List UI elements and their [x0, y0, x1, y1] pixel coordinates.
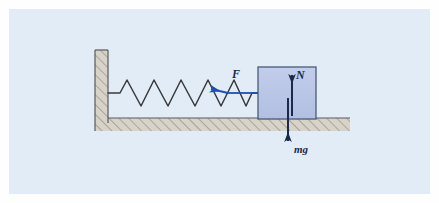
ground-surface — [95, 118, 350, 131]
physics-diagram-figure: F N mg — [0, 0, 439, 203]
vertical-wall — [95, 50, 108, 131]
force-label-mg: mg — [294, 143, 309, 155]
force-label-F: F — [231, 67, 240, 81]
diagram-canvas: F N mg — [0, 0, 439, 203]
force-label-N: N — [295, 68, 306, 82]
